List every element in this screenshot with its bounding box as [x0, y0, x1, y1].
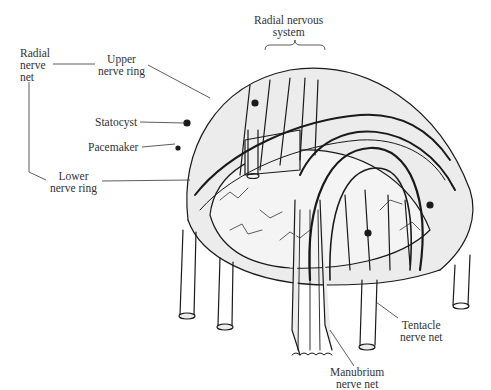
label-lower-nerve-ring: Lower nerve ring — [50, 170, 97, 194]
tentacle — [218, 258, 233, 325]
label-upper-nerve-ring: Upper nerve ring — [98, 53, 145, 77]
label-radial-nerve-net: Radial nerve net — [20, 47, 50, 83]
label-radial-nervous-system: Radial nervous system — [254, 14, 323, 38]
tentacle — [360, 280, 377, 345]
label-tentacle-nerve-net: Tentacle nerve net — [400, 319, 442, 343]
label-pacemaker: Pacemaker — [88, 141, 138, 153]
label-manubrium-nerve-net: Manubrium nerve net — [330, 366, 384, 390]
tentacle — [453, 255, 470, 305]
label-statocyst: Statocyst — [95, 116, 137, 128]
tentacle — [180, 230, 196, 315]
